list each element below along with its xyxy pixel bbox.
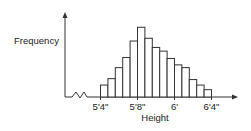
x-tick-label: 5'4" <box>93 101 109 112</box>
axis-break-zigzag <box>65 92 101 98</box>
histogram-bar <box>138 27 145 97</box>
histogram-bar <box>145 38 152 97</box>
histogram-bar <box>101 85 108 97</box>
histogram-bar <box>123 58 130 97</box>
histogram-bar <box>115 68 122 97</box>
histogram-bar <box>197 85 204 97</box>
y-axis-label: Frequency <box>14 35 59 46</box>
histogram-bar <box>167 58 174 97</box>
histogram-bar <box>130 41 137 97</box>
histogram-bar <box>189 80 196 97</box>
x-tick-label: 5'8" <box>130 101 146 112</box>
histogram-bar <box>175 65 182 97</box>
histogram-bar <box>182 68 189 97</box>
bars <box>101 27 212 97</box>
histogram-bar <box>160 51 167 97</box>
histogram-bar <box>108 79 115 97</box>
x-tick-labels: 5'4"5'8"6'6'4" <box>93 101 220 112</box>
histogram-bar <box>152 47 159 97</box>
x-axis-label: Height <box>141 112 169 123</box>
histogram-chart: Frequency Height 5'4"5'8"6'6'4" <box>0 0 251 131</box>
y-axis-arrow-icon <box>63 12 68 18</box>
x-axis-arrow-icon <box>232 95 238 100</box>
x-tick-label: 6'4" <box>204 101 220 112</box>
x-tick-label: 6' <box>171 101 178 112</box>
histogram-bar <box>204 90 211 97</box>
